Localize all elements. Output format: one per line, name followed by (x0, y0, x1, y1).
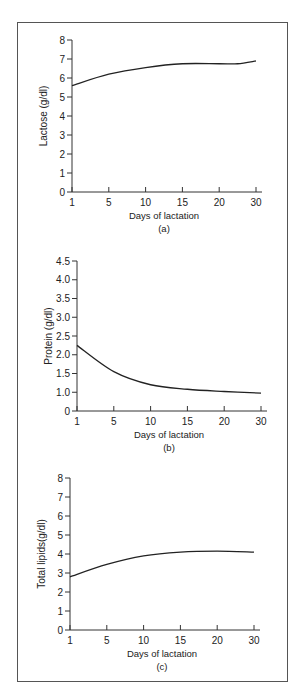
x-tick-label: 1 (67, 635, 73, 646)
y-tick-label: 4 (57, 549, 63, 560)
y-axis-label: Total lipids(g/dl) (36, 519, 47, 588)
x-tick-label: 5 (104, 635, 110, 646)
x-axis-label: Days of lactation (127, 648, 197, 659)
x-tick-label: 10 (138, 635, 150, 646)
x-tick-label: 30 (248, 635, 260, 646)
y-tick-label: 0 (57, 625, 63, 636)
y-tick-label: 7 (57, 492, 63, 503)
y-tick-label: 6 (57, 511, 63, 522)
x-tick-label: 15 (175, 635, 187, 646)
y-tick-label: 5 (57, 530, 63, 541)
y-tick-label: 3 (57, 568, 63, 579)
y-tick-label: 1 (57, 606, 63, 617)
y-tick-label: 2 (57, 587, 63, 598)
panel-label: (c) (156, 661, 167, 672)
chart-total-lipids: 0123456781510152030Days of lactation(c)T… (0, 0, 299, 699)
x-tick-label: 20 (212, 635, 224, 646)
y-tick-label: 8 (57, 473, 63, 484)
data-line (70, 551, 254, 577)
